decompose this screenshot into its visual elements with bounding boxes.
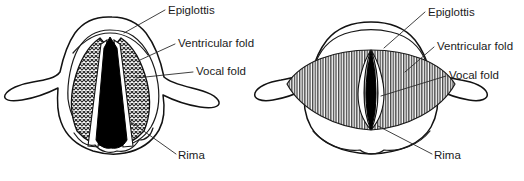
label-epiglottis-right: Epiglottis [428,6,475,18]
figure-canvas: Epiglottis Ventricular fold Vocal fold R… [0,0,524,181]
label-ventricular-fold-left: Ventricular fold [178,37,254,49]
label-vocal-fold-left: Vocal fold [196,65,246,77]
label-epiglottis-left: Epiglottis [168,4,215,16]
panel-right-closed-glottis: Epiglottis Ventricular fold Vocal fold R… [255,6,513,161]
laryngoscopy-figure: Epiglottis Ventricular fold Vocal fold R… [0,0,524,181]
label-rima-left: Rima [178,149,205,161]
label-vocal-fold-right: Vocal fold [449,69,499,81]
label-ventricular-fold-right: Ventricular fold [437,40,513,52]
label-rima-right: Rima [434,149,461,161]
panel-left-open-glottis: Epiglottis Ventricular fold Vocal fold R… [5,4,254,161]
